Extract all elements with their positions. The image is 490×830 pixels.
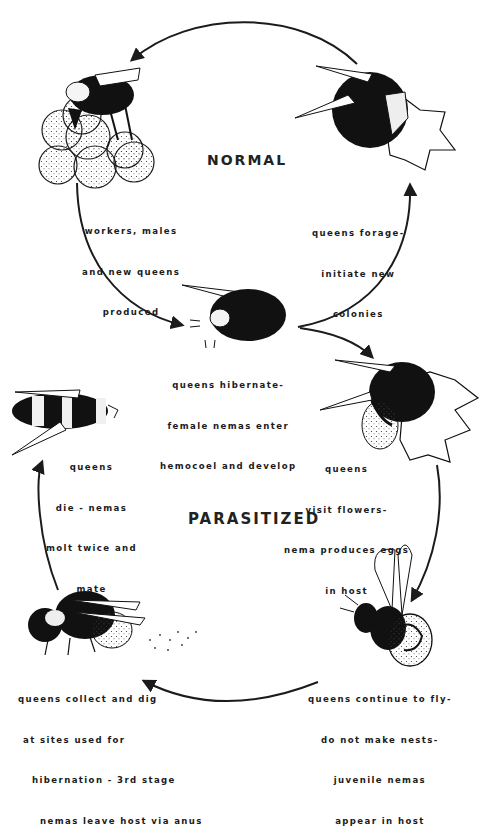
stage-label-collect-dig: queens collect and dig at sites used for… <box>18 665 203 830</box>
foraging-queen-illustration <box>295 66 455 170</box>
stage-label-nest: workers, males and new queens produced <box>82 197 180 332</box>
arrow-forage-to-nest <box>132 22 357 64</box>
stage-label-continue-fly: queens continue to fly- do not make nest… <box>308 665 452 830</box>
nest-bee-illustration <box>39 68 154 188</box>
stage-label-forage: queens forage- initiate new colonies <box>312 199 405 334</box>
stage-label-die-mate: queens die - nemas molt twice and mate <box>46 433 137 609</box>
normal-cycle-title: NORMAL <box>207 152 287 168</box>
stage-label-visit-flowers: queens visit flowers- nema produces eggs… <box>284 435 409 611</box>
arrow-visit-to-fly <box>412 465 440 600</box>
stage-label-hibernate: queens hibernate- female nemas enter hem… <box>160 351 296 486</box>
hibernating-queen-illustration <box>182 285 286 348</box>
